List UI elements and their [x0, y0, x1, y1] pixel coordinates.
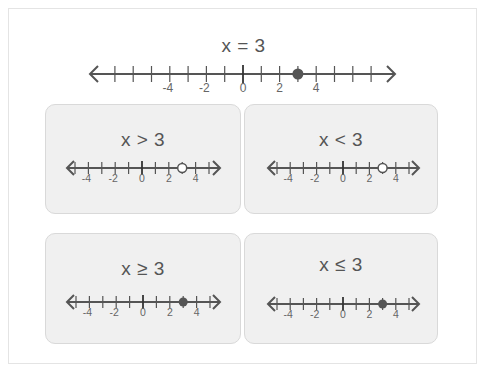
open-point — [378, 164, 387, 173]
tick-label: -2 — [310, 172, 319, 184]
tick-label: 2 — [166, 172, 172, 184]
tick-label: 0 — [139, 172, 145, 184]
number-line: -4-2024 — [268, 297, 419, 320]
number-line: -4-2024 — [67, 295, 220, 318]
tick-label: 2 — [167, 306, 173, 318]
tick-label: -4 — [284, 172, 293, 184]
tick-label: 2 — [366, 308, 372, 320]
tick-label: -4 — [284, 308, 293, 320]
tick-label: 4 — [393, 308, 399, 320]
tick-label: -2 — [109, 172, 118, 184]
number-line: -4-2024 — [268, 161, 419, 184]
tick-label: 0 — [340, 172, 346, 184]
tick-label: -4 — [82, 172, 91, 184]
tick-label: -2 — [310, 308, 319, 320]
tick-label: 4 — [193, 172, 199, 184]
tick-label: -2 — [110, 306, 119, 318]
closed-point — [378, 300, 387, 309]
closed-point — [179, 298, 188, 307]
tick-label: 2 — [366, 172, 372, 184]
tick-label: 0 — [140, 306, 146, 318]
tick-label: 4 — [393, 172, 399, 184]
panel-number-lines: -4-2024-4-2024-4-2024-4-2024 — [0, 0, 487, 374]
open-point — [178, 164, 187, 173]
tick-label: -4 — [83, 306, 92, 318]
tick-label: 0 — [340, 308, 346, 320]
number-line: -4-2024 — [67, 161, 220, 184]
tick-label: 4 — [194, 306, 200, 318]
